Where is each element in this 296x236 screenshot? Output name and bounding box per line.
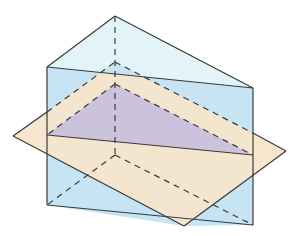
prism-plane-diagram [0,0,296,236]
